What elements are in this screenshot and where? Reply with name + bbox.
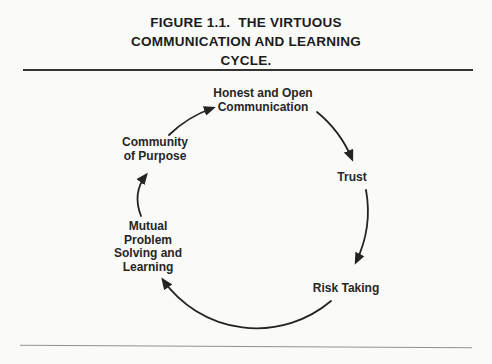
node-honest-open-communication: Honest and Open Communication: [213, 87, 312, 114]
arc-mutual-to-community: [137, 175, 146, 216]
arc-honest-to-trust: [317, 112, 352, 159]
arc-risk-to-mutual: [163, 280, 331, 328]
node-mutual-problem-solving-learning: Mutual Problem Solving and Learning: [114, 220, 182, 274]
arc-community-to-honest: [169, 108, 213, 135]
node-risk-taking: Risk Taking: [313, 282, 379, 296]
virtuous-cycle-diagram: Honest and Open Communication Trust Risk…: [0, 0, 492, 364]
node-community-of-purpose: Community of Purpose: [122, 136, 188, 163]
book-figure-page: FIGURE 1.1. THE VIRTUOUS COMMUNICATION A…: [0, 0, 492, 364]
cycle-arcs-canvas: [0, 0, 492, 364]
node-trust: Trust: [337, 171, 366, 185]
arc-trust-to-risk: [356, 190, 368, 262]
